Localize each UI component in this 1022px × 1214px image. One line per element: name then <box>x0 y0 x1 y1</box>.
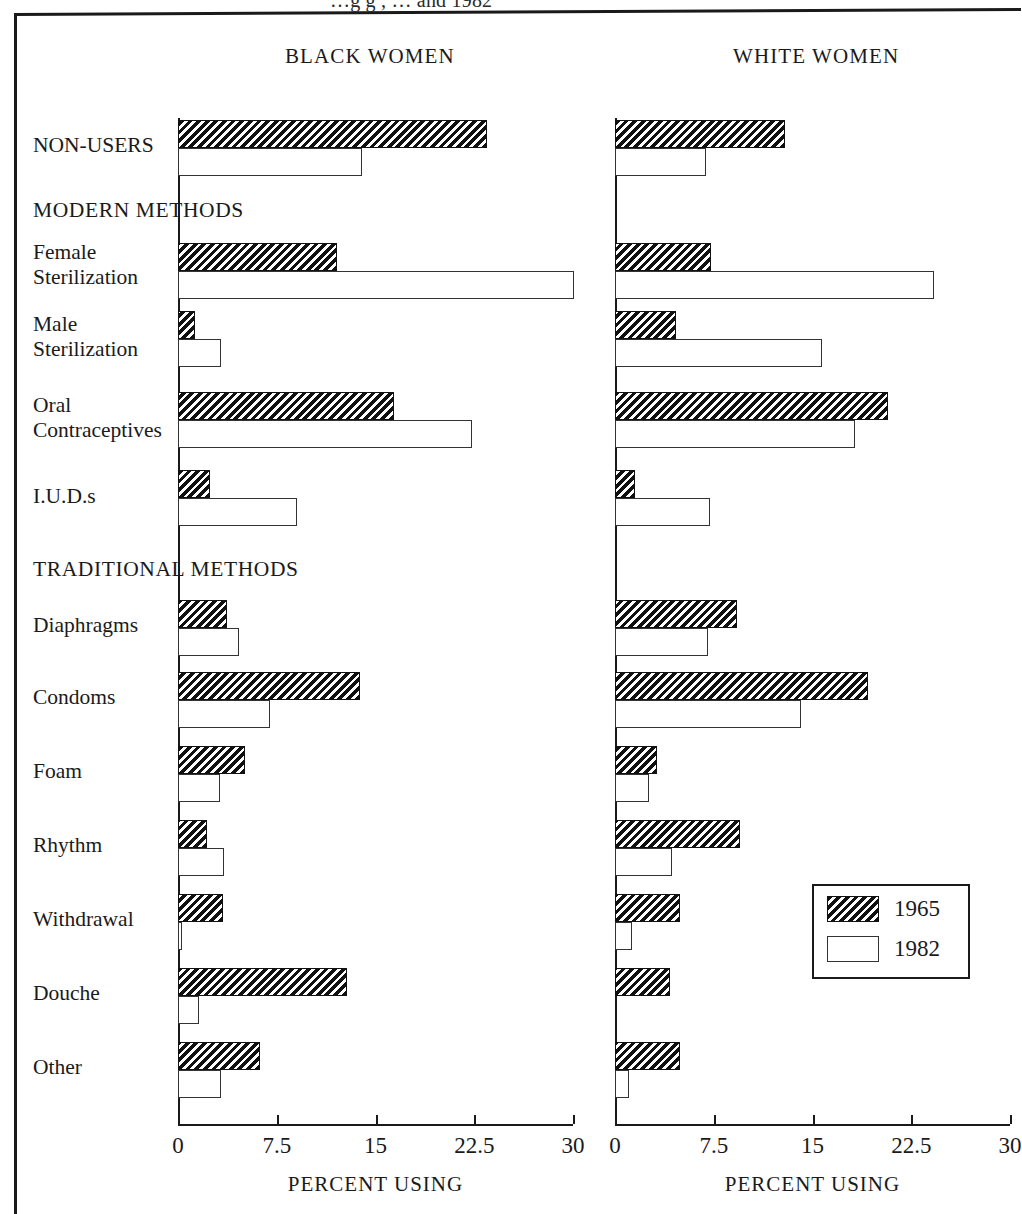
bar-white-oral-contraceptives-1982 <box>615 420 855 448</box>
section-heading-modern: MODERN METHODS <box>33 198 244 223</box>
bar-black-oral-contraceptives-1982 <box>178 420 472 448</box>
bar-black-withdrawal-1965 <box>178 894 223 922</box>
bar-black-foam-1965 <box>178 746 245 774</box>
bar-white-condoms-1965 <box>615 672 868 700</box>
legend-item-1982: 1982 <box>827 936 940 962</box>
row-label-diaphragms: Diaphragms <box>33 613 138 638</box>
bar-black-rhythm-1982 <box>178 848 224 876</box>
row-label-withdrawal: Withdrawal <box>33 907 134 932</box>
x-tick-label-white-2: 15 <box>801 1133 824 1159</box>
bar-black-male-sterilization-1965 <box>178 311 195 339</box>
bar-white-male-sterilization-1982 <box>615 339 822 367</box>
bar-black-male-sterilization-1982 <box>178 339 221 367</box>
row-label-female-sterilization: Female Sterilization <box>33 240 138 290</box>
bar-white-rhythm-1982 <box>615 848 672 876</box>
bar-black-douche-1965 <box>178 968 347 996</box>
bar-white-douche-1965 <box>615 968 670 996</box>
legend-label-1982: 1982 <box>894 936 940 962</box>
x-tick-white-3 <box>911 1115 913 1124</box>
bar-black-female-sterilization-1982 <box>178 271 574 299</box>
x-tick-white-4 <box>1010 1115 1012 1124</box>
legend-swatch-1982-icon <box>827 936 879 962</box>
bar-white-iuds-1965 <box>615 470 635 498</box>
row-label-oral-contraceptives: Oral Contraceptives <box>33 393 162 443</box>
bar-black-diaphragms-1965 <box>178 600 227 628</box>
section-heading-traditional: TRADITIONAL METHODS <box>33 557 299 582</box>
bar-black-condoms-1965 <box>178 672 360 700</box>
x-tick-black-1 <box>277 1115 279 1124</box>
bar-black-condoms-1982 <box>178 700 270 728</box>
bar-white-male-sterilization-1965 <box>615 311 676 339</box>
bar-black-foam-1982 <box>178 774 220 802</box>
x-axis-line-white <box>615 1124 1010 1126</box>
legend: 1965 1982 <box>812 884 970 979</box>
bar-black-female-sterilization-1965 <box>178 243 337 271</box>
x-tick-label-white-3: 22.5 <box>891 1133 931 1159</box>
bar-black-rhythm-1965 <box>178 820 207 848</box>
bar-black-oral-contraceptives-1965 <box>178 392 394 420</box>
bar-white-non-users-1982 <box>615 148 706 176</box>
bar-black-diaphragms-1982 <box>178 628 239 656</box>
x-tick-label-black-0: 0 <box>172 1133 184 1159</box>
x-tick-label-black-1: 7.5 <box>262 1133 291 1159</box>
bar-white-foam-1982 <box>615 774 649 802</box>
legend-label-1965: 1965 <box>894 896 940 922</box>
x-tick-label-white-4: 30 <box>999 1133 1022 1159</box>
bar-white-condoms-1982 <box>615 700 801 728</box>
x-axis-caption-white: PERCENT USING <box>725 1172 900 1197</box>
row-label-foam: Foam <box>33 759 82 784</box>
bar-white-rhythm-1965 <box>615 820 740 848</box>
bar-black-iuds-1965 <box>178 470 210 498</box>
bar-white-female-sterilization-1965 <box>615 243 711 271</box>
bar-white-diaphragms-1965 <box>615 600 737 628</box>
legend-swatch-1965-icon <box>827 896 879 922</box>
bar-white-withdrawal-1965 <box>615 894 680 922</box>
bar-black-douche-1982 <box>178 996 199 1024</box>
x-tick-white-2 <box>813 1115 815 1124</box>
x-tick-label-black-3: 22.5 <box>454 1133 494 1159</box>
bar-black-iuds-1982 <box>178 498 297 526</box>
row-label-condoms: Condoms <box>33 685 115 710</box>
row-label-non-users: NON-USERS <box>33 133 154 158</box>
row-label-rhythm: Rhythm <box>33 833 102 858</box>
x-tick-black-2 <box>376 1115 378 1124</box>
page-border-left <box>14 14 17 1214</box>
x-axis-line-black <box>178 1124 573 1126</box>
x-tick-label-black-2: 15 <box>364 1133 387 1159</box>
bar-white-oral-contraceptives-1965 <box>615 392 888 420</box>
bar-white-female-sterilization-1982 <box>615 271 934 299</box>
row-label-male-sterilization: Male Sterilization <box>33 312 138 362</box>
bar-white-withdrawal-1982 <box>615 922 632 950</box>
bar-black-other-1982 <box>178 1070 221 1098</box>
x-tick-label-white-0: 0 <box>609 1133 621 1159</box>
bar-black-non-users-1965 <box>178 120 487 148</box>
x-tick-label-black-4: 30 <box>562 1133 585 1159</box>
panel-title-black-women: BLACK WOMEN <box>285 44 455 69</box>
x-tick-white-1 <box>714 1115 716 1124</box>
row-label-iuds: I.U.D.s <box>33 484 96 509</box>
bar-white-foam-1965 <box>615 746 657 774</box>
bar-black-withdrawal-1982 <box>178 922 182 950</box>
bar-black-other-1965 <box>178 1042 260 1070</box>
row-label-douche: Douche <box>33 981 100 1006</box>
clipped-figure-title: …g g , … and 1982 <box>330 0 890 12</box>
legend-item-1965: 1965 <box>827 896 940 922</box>
panel-title-white-women: WHITE WOMEN <box>733 44 899 69</box>
bar-black-non-users-1982 <box>178 148 362 176</box>
bar-white-iuds-1982 <box>615 498 710 526</box>
bar-white-other-1982 <box>615 1070 629 1098</box>
x-tick-black-3 <box>474 1115 476 1124</box>
x-axis-caption-black: PERCENT USING <box>288 1172 463 1197</box>
bar-white-diaphragms-1982 <box>615 628 708 656</box>
bar-white-non-users-1965 <box>615 120 785 148</box>
bar-white-other-1965 <box>615 1042 680 1070</box>
x-tick-black-4 <box>573 1115 575 1124</box>
x-tick-label-white-1: 7.5 <box>699 1133 728 1159</box>
row-label-other: Other <box>33 1055 82 1080</box>
